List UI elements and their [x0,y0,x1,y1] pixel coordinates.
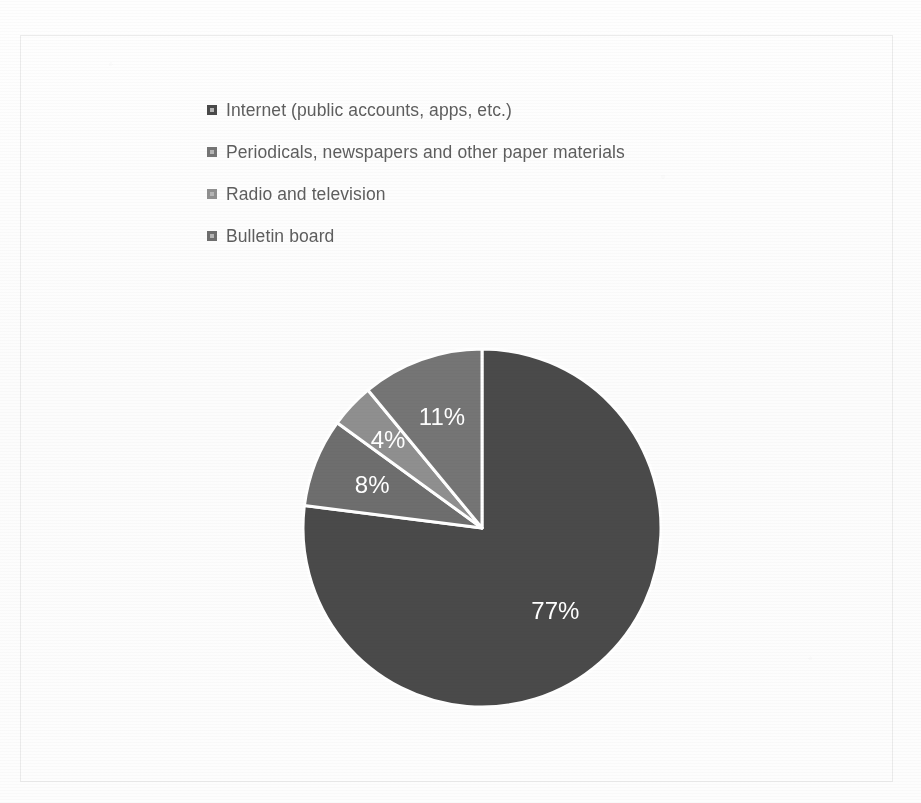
pie-slice-label: 77% [531,597,579,624]
legend-item-label: Bulletin board [226,226,334,247]
pie-chart-svg: 77%8%4%11% [302,348,662,708]
square-marker-icon [207,147,217,157]
pie-chart: 77%8%4%11% [302,348,662,708]
chart-legend: Internet (public accounts, apps, etc.) P… [207,89,827,257]
square-marker-icon [207,105,217,115]
chart-frame: Internet (public accounts, apps, etc.) P… [20,35,893,782]
legend-item-bulletin-board[interactable]: Bulletin board [207,215,827,257]
legend-item-label: Periodicals, newspapers and other paper … [226,142,625,163]
legend-item-internet[interactable]: Internet (public accounts, apps, etc.) [207,89,827,131]
ghost-text-fragment [150,0,470,10]
square-marker-icon [207,189,217,199]
pie-slice-label: 4% [371,426,406,453]
legend-item-label: Internet (public accounts, apps, etc.) [226,100,512,121]
pie-slice-label: 11% [419,403,465,430]
legend-item-label: Radio and television [226,184,386,205]
legend-item-radio-television[interactable]: Radio and television [207,173,827,215]
pie-slice-label: 8% [355,471,390,498]
square-marker-icon [207,231,217,241]
legend-item-periodicals[interactable]: Periodicals, newspapers and other paper … [207,131,827,173]
